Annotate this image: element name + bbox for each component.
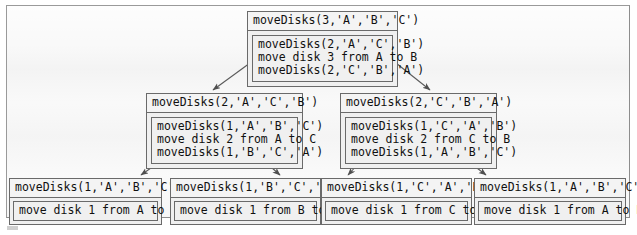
- node-leaf-1-header: moveDisks(1,'B','C','A'): [171, 179, 320, 198]
- node-root-body: moveDisks(2,'A','C','B') move disk 3 fro…: [252, 35, 393, 82]
- tree-node-leaf-1[interactable]: moveDisks(1,'B','C','A') move disk 1 fro…: [170, 178, 321, 225]
- node-level1-left-header: moveDisks(2,'A','C','B'): [147, 94, 302, 113]
- node-leaf-2-body: move disk 1 from C to A: [325, 201, 468, 221]
- scan-artifact-mark: [7, 226, 18, 230]
- node-leaf-2-header: moveDisks(1,'C','A','B'): [322, 179, 471, 198]
- node-leaf-3-header: moveDisks(1,'A','B','C'): [475, 179, 625, 198]
- tree-node-level1-right[interactable]: moveDisks(2,'C','B','A') moveDisks(1,'C'…: [340, 93, 497, 169]
- node-level1-left-body: moveDisks(1,'A','B','C') move disk 2 fro…: [151, 117, 298, 164]
- tree-node-level1-left[interactable]: moveDisks(2,'A','C','B') moveDisks(1,'A'…: [146, 93, 303, 169]
- node-level1-right-body: moveDisks(1,'C','A','B') move disk 2 fro…: [345, 117, 492, 164]
- tree-node-root[interactable]: moveDisks(3,'A','B','C') moveDisks(2,'A'…: [247, 11, 398, 87]
- node-leaf-0-line-0: move disk 1 from A to B: [19, 204, 152, 217]
- node-leaf-3-line-0: move disk 1 from A to B: [484, 204, 616, 217]
- node-leaf-0-body: move disk 1 from A to B: [13, 201, 158, 221]
- node-leaf-2-line-0: move disk 1 from C to A: [331, 204, 462, 217]
- node-leaf-1-body: move disk 1 from B to C: [174, 201, 317, 221]
- tree-node-leaf-3[interactable]: moveDisks(1,'A','B','C') move disk 1 fro…: [474, 178, 626, 225]
- node-root-line-2: moveDisks(2,'C','B','A'): [258, 64, 387, 77]
- tree-node-leaf-2[interactable]: moveDisks(1,'C','A','B') move disk 1 fro…: [321, 178, 472, 225]
- node-leaf-3-body: move disk 1 from A to B: [478, 201, 622, 221]
- tree-node-leaf-0[interactable]: moveDisks(1,'A','B','C') move disk 1 fro…: [9, 178, 162, 225]
- node-leaf-0-header: moveDisks(1,'A','B','C'): [10, 179, 161, 198]
- node-level1-right-header: moveDisks(2,'C','B','A'): [341, 94, 496, 113]
- node-level1-left-line-2: moveDisks(1,'B','C','A'): [157, 146, 292, 159]
- node-level1-right-line-2: moveDisks(1,'A','B','C'): [351, 146, 486, 159]
- figure-canvas: moveDisks(3,'A','B','C') moveDisks(2,'A'…: [0, 0, 637, 235]
- node-leaf-1-line-0: move disk 1 from B to C: [180, 204, 311, 217]
- node-root-header: moveDisks(3,'A','B','C'): [248, 12, 397, 31]
